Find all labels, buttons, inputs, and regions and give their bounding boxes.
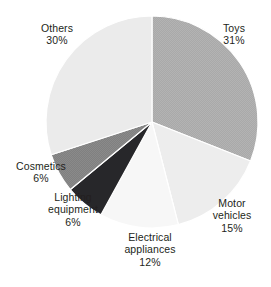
- slice-label-cosmetics-value: 6%: [8, 172, 74, 184]
- slice-label-motor-vehicles: Motor vehicles 15%: [202, 197, 262, 234]
- slice-label-others-value: 30%: [29, 34, 85, 46]
- slice-label-lighting-equipment-name-line1: Lighting: [34, 191, 112, 203]
- slice-label-motor-vehicles-name-line1: Motor: [202, 197, 262, 209]
- slice-label-cosmetics-name: Cosmetics: [8, 160, 74, 172]
- slice-label-lighting-equipment: Lighting equipment 6%: [34, 191, 112, 228]
- slice-label-others: Others 30%: [29, 22, 85, 47]
- pie-chart: Others 30% Toys 31% Motor vehicles 15% E…: [0, 0, 271, 287]
- slice-label-others-name: Others: [29, 22, 85, 34]
- slice-label-toys-name: Toys: [211, 22, 257, 34]
- slice-label-motor-vehicles-name-line2: vehicles: [202, 209, 262, 221]
- slice-label-electrical-appliances-name-line2: appliances: [113, 243, 187, 255]
- slice-label-electrical-appliances-name-line1: Electrical: [113, 231, 187, 243]
- slice-label-electrical-appliances: Electrical appliances 12%: [113, 231, 187, 268]
- slice-label-electrical-appliances-value: 12%: [113, 256, 187, 268]
- slice-label-cosmetics: Cosmetics 6%: [8, 160, 74, 185]
- slice-label-lighting-equipment-name-line2: equipment: [34, 203, 112, 215]
- slice-label-toys: Toys 31%: [211, 22, 257, 47]
- slice-label-motor-vehicles-value: 15%: [202, 222, 262, 234]
- slice-label-toys-value: 31%: [211, 34, 257, 46]
- slice-label-lighting-equipment-value: 6%: [34, 216, 112, 228]
